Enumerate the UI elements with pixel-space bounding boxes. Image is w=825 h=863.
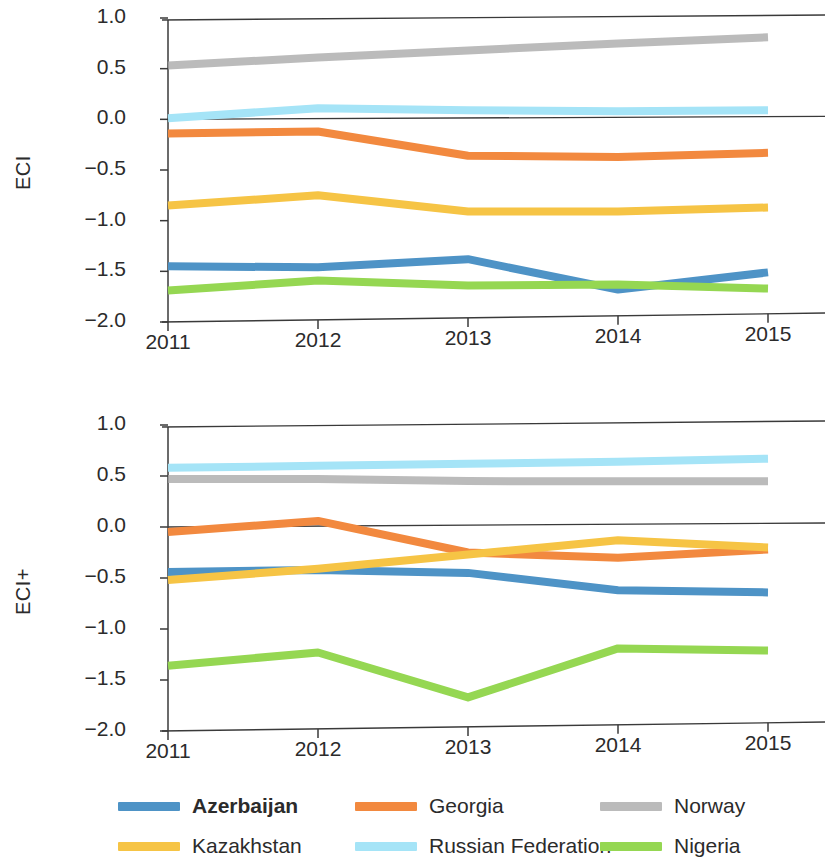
plot-area-eci — [0, 0, 825, 370]
figure-canvas: ECI 1.00.50.0−0.5−1.0−1.5−2.0 2011201220… — [0, 0, 825, 863]
legend-label: Kazakhstan — [192, 834, 302, 858]
legend-item-nigeria[interactable]: Nigeria — [600, 834, 741, 858]
series-line-norway — [168, 479, 768, 481]
legend-color-swatch — [355, 802, 417, 811]
axis-top-rule — [162, 15, 825, 20]
series-line-nigeria — [168, 648, 768, 697]
series-line-kazakhstan — [168, 195, 768, 211]
series-line-russian-federation — [168, 459, 768, 468]
legend-label: Azerbaijan — [192, 794, 298, 818]
legend-item-russian-federation[interactable]: Russian Federation — [355, 834, 611, 858]
legend-color-swatch — [118, 802, 180, 811]
legend-label: Norway — [674, 794, 745, 818]
legend-label: Nigeria — [674, 834, 741, 858]
legend-color-swatch — [600, 842, 662, 851]
series-line-norway — [168, 37, 768, 65]
axis-top-rule — [162, 421, 825, 427]
chart-panel-eci: ECI 1.00.50.0−0.5−1.0−1.5−2.0 2011201220… — [0, 0, 825, 370]
legend-color-swatch — [118, 842, 180, 851]
legend-item-kazakhstan[interactable]: Kazakhstan — [118, 834, 302, 858]
legend-item-georgia[interactable]: Georgia — [355, 794, 504, 818]
legend-item-azerbaijan[interactable]: Azerbaijan — [118, 794, 298, 818]
axis-zero-line — [168, 116, 825, 119]
legend-color-swatch — [600, 802, 662, 811]
legend-label: Georgia — [429, 794, 504, 818]
axis-bottom-rule — [162, 313, 825, 322]
chart-panel-eciplus: ECI+ 1.00.50.0−0.5−1.0−1.5−2.0 201120122… — [0, 400, 825, 780]
chart-legend: AzerbaijanGeorgiaNorwayKazakhstanRussian… — [0, 786, 825, 863]
plot-area-eciplus — [0, 400, 825, 780]
series-line-georgia — [168, 132, 768, 157]
legend-item-norway[interactable]: Norway — [600, 794, 745, 818]
legend-label: Russian Federation — [429, 834, 611, 858]
legend-color-swatch — [355, 842, 417, 851]
axis-bottom-rule — [162, 722, 825, 731]
